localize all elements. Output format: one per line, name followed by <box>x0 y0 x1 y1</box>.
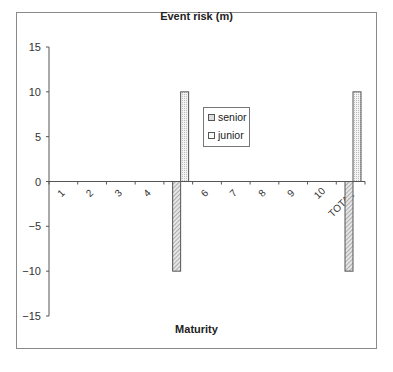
y-tick-label: 10 <box>29 86 41 98</box>
y-tick-label: 0 <box>35 176 41 188</box>
x-tick-label: 9 <box>285 187 297 199</box>
bar-senior <box>173 182 181 272</box>
y-tick-label: 5 <box>35 131 41 143</box>
y-tick-label: −10 <box>22 265 41 277</box>
y-tick-label: 15 <box>29 41 41 53</box>
y-axis: 151050−5−10−15 <box>22 41 49 322</box>
x-tick-label: 6 <box>199 187 211 199</box>
legend-item-junior: junior <box>204 126 249 144</box>
x-tick-label: 8 <box>256 187 268 199</box>
dotted-swatch-icon <box>208 132 215 139</box>
bar-junior <box>353 92 361 182</box>
legend-item-senior: senior <box>204 108 249 126</box>
x-tick-label: 4 <box>141 187 153 199</box>
legend-label-senior: senior <box>218 111 247 123</box>
x-tick-label: 7 <box>227 187 239 199</box>
hatch-swatch-icon <box>208 114 215 121</box>
legend-label-junior: junior <box>218 129 244 141</box>
x-axis: 12345678910TOTAL <box>49 182 365 220</box>
x-tick-label: 3 <box>112 187 124 199</box>
x-tick-label: 10 <box>312 185 328 201</box>
bar-senior <box>345 182 353 272</box>
plot-area: 151050−5−10−15 12345678910TOTAL <box>0 0 393 372</box>
y-tick-label: −15 <box>22 310 41 322</box>
bar-junior <box>181 92 189 182</box>
y-tick-label: −5 <box>28 220 41 232</box>
x-tick-label: 2 <box>84 187 96 199</box>
x-tick-label: 1 <box>55 187 67 199</box>
legend: senior junior <box>203 107 250 147</box>
